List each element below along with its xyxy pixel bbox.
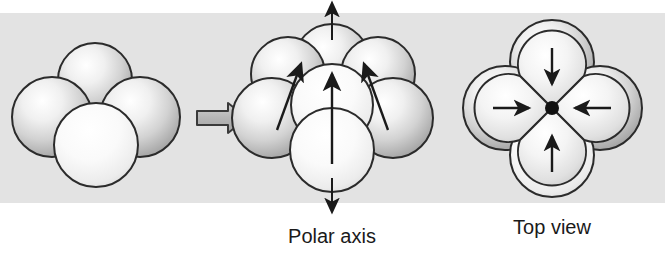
- center-dot: [545, 101, 559, 115]
- sphere-front: [54, 103, 138, 187]
- top-view-label: Top view: [513, 216, 591, 238]
- polar-axis-label: Polar axis: [288, 225, 376, 247]
- ferroelectric-domain-diagram: Polar axis Top view: [0, 0, 665, 256]
